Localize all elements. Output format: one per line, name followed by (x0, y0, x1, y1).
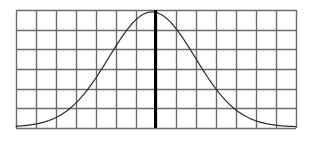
chart-canvas (0, 0, 311, 141)
normal-distribution-figure (0, 0, 311, 141)
